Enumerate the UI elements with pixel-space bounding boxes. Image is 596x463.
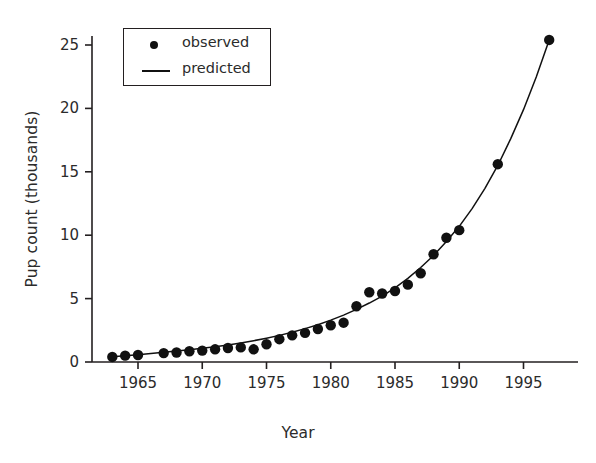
x-axis-tick-label: 1980 [301, 374, 361, 392]
x-axis-tick-label: 1995 [494, 374, 554, 392]
observed-data-point [390, 286, 400, 296]
observed-data-point [300, 328, 310, 338]
observed-data-point [184, 346, 194, 356]
observed-data-point [210, 344, 220, 354]
observed-data-point [416, 268, 426, 278]
observed-data-point [120, 350, 130, 360]
legend-label-predicted: predicted [182, 60, 251, 76]
observed-data-point [274, 334, 284, 344]
observed-data-point [171, 347, 181, 357]
observed-data-point [454, 225, 464, 235]
observed-data-point [428, 249, 438, 259]
y-axis-tick-label: 20 [39, 99, 79, 117]
observed-data-point [223, 343, 233, 353]
legend-item-observed: observed [124, 31, 270, 58]
observed-data-point [287, 330, 297, 340]
observed-data-point [261, 339, 271, 349]
y-axis-tick-label: 25 [39, 36, 79, 54]
legend: observed predicted [123, 28, 271, 86]
x-axis-tick-label: 1965 [108, 374, 168, 392]
observed-data-point [236, 342, 246, 352]
y-axis-tick-label: 5 [39, 290, 79, 308]
observed-data-point [441, 233, 451, 243]
observed-data-point [107, 352, 117, 362]
x-axis-tick-label: 1985 [365, 374, 425, 392]
observed-data-point [493, 159, 503, 169]
predicted-line [112, 40, 549, 357]
plot-area [0, 0, 596, 463]
observed-data-point [338, 317, 348, 327]
observed-data-point [377, 288, 387, 298]
chart-figure: Pup count (thousands) Year 0510152025196… [0, 0, 596, 463]
y-axis-tick-label: 0 [39, 353, 79, 371]
observed-data-point [544, 35, 554, 45]
observed-data-point [197, 345, 207, 355]
observed-data-point [403, 279, 413, 289]
observed-data-point [326, 320, 336, 330]
observed-data-point [248, 344, 258, 354]
x-axis-tick-label: 1975 [237, 374, 297, 392]
observed-data-point [133, 350, 143, 360]
observed-data-point [351, 301, 361, 311]
legend-item-predicted: predicted [124, 57, 270, 84]
observed-data-point [159, 348, 169, 358]
y-axis-tick-label: 15 [39, 163, 79, 181]
x-axis-tick-label: 1970 [172, 374, 232, 392]
observed-data-point [313, 324, 323, 334]
legend-marker-line-icon [138, 57, 178, 84]
observed-data-point [364, 287, 374, 297]
y-axis-tick-label: 10 [39, 226, 79, 244]
legend-marker-dot-icon [138, 31, 178, 58]
legend-label-observed: observed [182, 34, 249, 50]
x-axis-tick-label: 1990 [429, 374, 489, 392]
